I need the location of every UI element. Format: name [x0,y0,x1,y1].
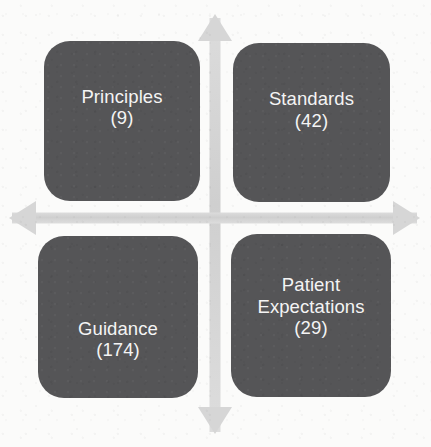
quadrant-count-principles: (9) [111,107,134,128]
quadrant-label-guidance: Guidance [78,318,158,339]
quadrant-count-standards: (42) [295,110,328,131]
vertical-axis-arrow [198,14,232,434]
quadrant-box-standards[interactable]: Standards (42) [233,43,390,202]
quadrant-count-patient-expectations: (29) [294,317,327,338]
quadrant-box-principles[interactable]: Principles (9) [44,41,200,201]
quadrant-count-guidance: (174) [96,339,140,360]
quadrant-box-guidance[interactable]: Guidance (174) [38,236,198,398]
quadrant-diagram-canvas: Principles (9) Standards (42) Guidance (… [0,0,431,447]
quadrant-label-patient-expectations: Patient Expectations [257,274,364,317]
quadrant-label-principles: Principles [81,86,162,107]
quadrant-label-standards: Standards [269,88,354,109]
quadrant-box-patient-expectations[interactable]: Patient Expectations (29) [231,234,391,397]
